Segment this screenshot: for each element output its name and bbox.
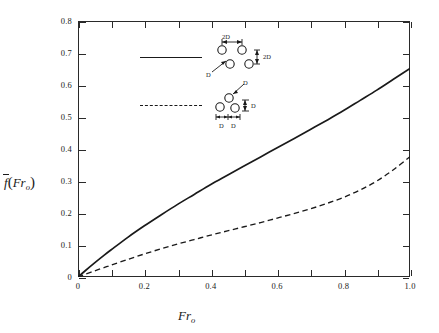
legend-label-horizontal-d-left: D: [219, 122, 224, 129]
legend-row-dashed: D D D D: [132, 84, 272, 130]
y-ticklabel: 0.1: [42, 240, 72, 250]
y-ticklabel: 0.7: [42, 48, 72, 58]
x-ticklabel: 0.8: [330, 281, 358, 291]
legend-label-vertical-2d: 2D: [263, 53, 271, 60]
legend-label-horizontal-2d: 2D: [222, 33, 230, 40]
y-ticklabel: 0.8: [42, 16, 72, 26]
legend-label-horizontal-d-right: D: [231, 122, 236, 129]
y-axis-title-arg: Fr: [13, 175, 26, 190]
x-ticklabel: 0.2: [130, 281, 158, 291]
y-axis-title: f(Fro): [4, 168, 76, 198]
legend-label-offset-d-2: D: [243, 79, 248, 86]
y-tick-left: [79, 278, 86, 279]
legend-sample-dashed: [140, 105, 202, 106]
legend-sketch-d-spacing: [204, 80, 274, 130]
x-tick-top: [411, 22, 412, 28]
legend-label-offset-d: D: [206, 71, 211, 78]
y-axis-title-fbar: f: [4, 174, 8, 191]
x-axis-title: Fro: [178, 306, 268, 326]
y-ticklabel: 0.2: [42, 208, 72, 218]
y-ticklabel: 0.6: [42, 80, 72, 90]
x-ticklabel: 0.4: [197, 281, 225, 291]
series-dashed-line: [78, 157, 410, 277]
y-ticklabel: 0.5: [42, 112, 72, 122]
legend: 2D 2D D: [132, 36, 272, 136]
legend-row-solid: 2D 2D D: [132, 36, 272, 82]
y-tick-right: [403, 278, 409, 279]
x-ticklabel: 0: [64, 281, 92, 291]
y-ticklabel: 0.4: [42, 144, 72, 154]
legend-sample-solid: [140, 57, 202, 58]
x-ticklabel: 0.6: [263, 281, 291, 291]
figure: 00.10.20.30.40.50.60.70.8 00.20.40.60.81…: [0, 0, 439, 333]
x-ticklabel: 1.0: [396, 281, 424, 291]
x-axis-title-sub: o: [191, 315, 195, 325]
x-axis-title-text: Fr: [178, 308, 191, 323]
x-tick-bottom: [411, 270, 412, 276]
legend-label-vertical-d: D: [251, 102, 256, 109]
